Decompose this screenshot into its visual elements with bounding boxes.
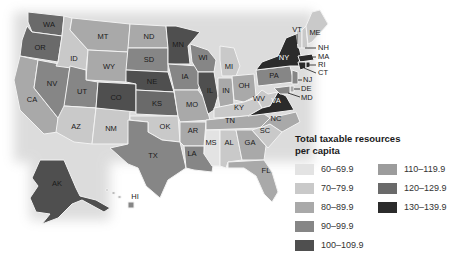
label-IL: IL	[207, 86, 213, 95]
label-TX: TX	[148, 151, 158, 160]
legend-label: 70–79.9	[321, 183, 354, 193]
label-KS: KS	[152, 99, 162, 108]
map-legend: Total taxable resources per capita 60–69…	[295, 133, 459, 252]
label-ND: ND	[144, 32, 155, 41]
label-AZ: AZ	[71, 122, 81, 131]
label-ME: ME	[309, 28, 320, 37]
legend-label: 60–69.9	[321, 164, 354, 174]
legend-label: 90–99.9	[321, 221, 354, 231]
label-DE: DE	[301, 84, 311, 93]
legend-title-line1: Total taxable resources	[295, 133, 459, 145]
label-WV: WV	[253, 94, 265, 103]
label-VA: VA	[271, 96, 280, 105]
label-KY: KY	[234, 103, 244, 112]
label-VT: VT	[292, 25, 302, 34]
label-OK: OK	[160, 122, 171, 131]
label-CO: CO	[110, 93, 121, 102]
label-WI: WI	[198, 53, 207, 62]
legend-grid: 60–69.9 70–79.9 80–89.9 90–99.9 100–109.…	[295, 162, 459, 252]
label-OH: OH	[238, 81, 249, 90]
legend-item: 130–139.9	[378, 200, 458, 214]
label-ID: ID	[70, 54, 78, 63]
legend-swatch	[295, 202, 314, 213]
legend-item: 80–89.9	[295, 200, 378, 214]
label-NY: NY	[279, 53, 289, 62]
label-WY: WY	[103, 62, 115, 71]
state-MA[interactable]	[298, 54, 314, 62]
label-MS: MS	[205, 138, 216, 147]
label-CA: CA	[27, 95, 37, 104]
label-NV: NV	[47, 79, 57, 88]
label-TN: TN	[225, 116, 235, 125]
legend-item: 60–69.9	[295, 162, 378, 176]
label-NC: NC	[271, 114, 282, 123]
label-PA: PA	[269, 71, 278, 80]
label-MD: MD	[301, 93, 313, 102]
label-UT: UT	[77, 87, 87, 96]
state-NJ[interactable]	[292, 70, 298, 84]
legend-item: 70–79.9	[295, 181, 378, 195]
label-MT: MT	[98, 32, 109, 41]
state-CT[interactable]	[298, 62, 306, 70]
label-IN: IN	[222, 86, 230, 95]
label-MN: MN	[172, 40, 184, 49]
legend-item: 110–119.9	[378, 162, 458, 176]
legend-swatch	[295, 221, 314, 232]
legend-swatch	[378, 164, 397, 175]
legend-label: 80–89.9	[321, 202, 354, 212]
label-GA: GA	[245, 138, 256, 147]
legend-label: 110–119.9	[404, 164, 445, 174]
legend-title: Total taxable resources per capita	[295, 133, 459, 157]
legend-title-line2: per capita	[295, 145, 459, 157]
legend-item: 120–129.9	[378, 181, 458, 195]
state-FL[interactable]	[228, 160, 278, 202]
legend-swatch	[295, 164, 314, 175]
label-WA: WA	[43, 20, 55, 29]
legend-swatch	[378, 202, 397, 213]
label-NM: NM	[105, 124, 117, 133]
legend-swatch	[378, 183, 397, 194]
label-MI: MI	[225, 62, 233, 71]
label-IA: IA	[181, 72, 188, 81]
label-FL: FL	[262, 166, 271, 175]
legend-item: 100–109.9	[295, 238, 378, 252]
label-NE: NE	[147, 77, 157, 86]
label-HI: HI	[131, 192, 139, 201]
label-SD: SD	[144, 55, 155, 64]
legend-swatch	[295, 183, 314, 194]
label-LA: LA	[187, 149, 196, 158]
legend-label: 130–139.9	[404, 202, 447, 212]
state-DE[interactable]	[290, 86, 294, 92]
label-MO: MO	[186, 100, 198, 109]
legend-item: 90–99.9	[295, 219, 378, 233]
label-AR: AR	[188, 126, 199, 135]
label-NJ: NJ	[303, 75, 312, 84]
label-NH: NH	[318, 43, 329, 52]
legend-label: 100–109.9	[321, 240, 364, 250]
label-CT: CT	[318, 68, 328, 77]
legend-label: 120–129.9	[404, 183, 447, 193]
label-OR: OR	[34, 43, 46, 52]
legend-swatch	[295, 240, 314, 251]
label-SC: SC	[260, 126, 271, 135]
state-HI[interactable]	[106, 189, 134, 208]
label-AK: AK	[52, 179, 62, 188]
label-AL: AL	[224, 138, 233, 147]
